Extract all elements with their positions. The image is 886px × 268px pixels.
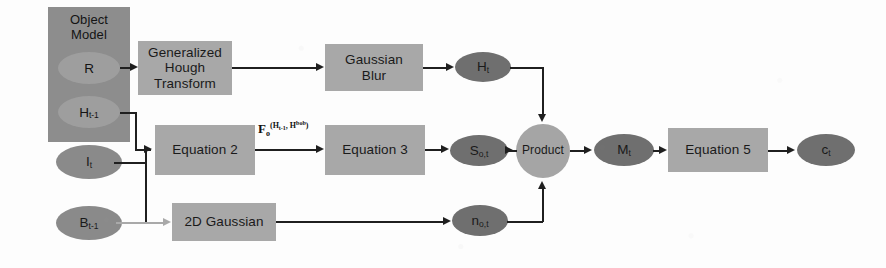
ght-line3: Transform <box>154 76 216 91</box>
arrow-eq2-to-eq3 <box>316 145 324 153</box>
arrow-Bprev-to-gauss2d <box>163 218 171 226</box>
process-equation-2: Equation 2 <box>155 125 255 175</box>
node-B-prev-label: B <box>79 215 88 230</box>
gauss2d-label: 2D Gaussian <box>184 214 263 229</box>
node-c-t-label: c <box>821 142 828 157</box>
edge-nt-elbow-up <box>542 188 544 222</box>
process-equation-5: Equation 5 <box>668 128 768 172</box>
blur-line2: Blur <box>362 68 386 83</box>
edge-blur-to-Ht <box>423 67 447 69</box>
ght-line1: Generalized <box>148 45 222 60</box>
edge-ght-to-blur <box>232 67 317 69</box>
node-R: R <box>58 52 120 84</box>
edge-Ht-elbow-down <box>542 67 544 115</box>
arrow-nt-into-product <box>538 181 546 189</box>
eq3-label: Equation 3 <box>342 142 408 157</box>
arrow-Ht-into-product <box>538 114 546 122</box>
process-2d-gaussian: 2D Gaussian <box>172 203 276 241</box>
node-c-t: ct <box>797 134 855 166</box>
arrow-Mt-to-eq5 <box>659 146 667 154</box>
product-label: Product <box>522 144 564 157</box>
edge-label-feature-function: Fo(Ht-1, Hbob) <box>258 121 308 137</box>
edge-Bprev-to-gauss2d <box>116 222 164 224</box>
node-H-prev: Ht-1 <box>58 96 120 128</box>
object-model-label-line1: Object <box>70 13 108 28</box>
arrow-product-to-Mt <box>584 146 592 154</box>
object-model-label-line2: Model <box>71 28 107 43</box>
edge-It-down-to-branch <box>145 162 147 222</box>
node-I-t: It <box>56 145 122 179</box>
process-gaussian-blur: Gaussian Blur <box>325 44 423 91</box>
edge-Ht-to-elbow <box>510 67 543 69</box>
node-S-ot-label: S <box>470 143 479 158</box>
formula-base: F <box>258 121 266 136</box>
arrow-eq5-to-ct <box>787 146 795 154</box>
arrow-blur-to-Ht <box>446 63 454 71</box>
edge-eq2-to-eq3 <box>255 149 317 151</box>
edge-Hprev-stub <box>120 112 136 114</box>
process-generalized-hough-transform: Generalized Hough Transform <box>138 41 232 95</box>
process-equation-3: Equation 3 <box>325 125 425 175</box>
arrow-R-to-ght <box>130 63 138 71</box>
formula-sub: o <box>266 129 270 138</box>
node-B-prev: Bt-1 <box>56 206 122 240</box>
arrow-bus-to-eq2 <box>144 145 152 153</box>
edge-It-stub <box>114 162 146 164</box>
node-H-t: Ht <box>455 52 511 82</box>
blur-line1: Gaussian <box>345 52 403 67</box>
arrow-eq3-to-St <box>441 145 449 153</box>
eq5-label: Equation 5 <box>685 142 751 157</box>
edge-nt-to-elbow <box>507 221 543 223</box>
eq2-label: Equation 2 <box>172 142 238 157</box>
node-R-label: R <box>84 61 94 76</box>
node-H-prev-label: H <box>79 105 89 120</box>
arrow-ght-to-blur <box>316 63 324 71</box>
node-M-t-label: M <box>617 142 628 157</box>
ght-line2: Hough <box>165 60 205 75</box>
formula-sup: (Ht-1, Hbob) <box>270 121 309 130</box>
edge-gauss2d-to-nt <box>276 221 444 223</box>
edge-Hprev-down <box>135 112 137 150</box>
node-product: Product <box>516 124 570 178</box>
arrow-St-into-product <box>505 146 513 154</box>
node-M-t: Mt <box>594 134 654 166</box>
diagram-canvas: Object Model R Ht-1 It Bt-1 Generalized … <box>0 0 886 268</box>
node-H-t-label: H <box>477 59 487 74</box>
node-n-ot-label: n <box>471 213 479 228</box>
node-n-ot: no,t <box>452 205 508 236</box>
edge-eq5-to-ct <box>768 150 789 152</box>
node-S-ot: So,t <box>450 135 508 166</box>
arrow-gauss2d-to-nt <box>443 217 451 225</box>
